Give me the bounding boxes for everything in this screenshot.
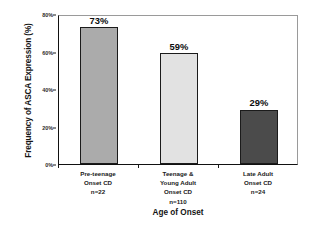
bar-value-label: 29% bbox=[226, 97, 292, 108]
y-axis-tick-mark bbox=[53, 90, 56, 91]
plot-area: 73%59%29% bbox=[58, 15, 298, 165]
x-axis-tick-mark bbox=[218, 165, 219, 168]
bar-chart-figure: Frequency of ASCA Expression (%) 0%20%40… bbox=[0, 0, 309, 228]
bars-layer: 73%59%29% bbox=[59, 16, 297, 164]
bar[interactable] bbox=[240, 110, 278, 164]
category-label: Teenage &Young AdultOnset CDn=110 bbox=[138, 169, 218, 206]
category-label-line: Teenage & bbox=[138, 169, 218, 178]
category-label-line: n=110 bbox=[138, 197, 218, 206]
bar-group[interactable]: 59% bbox=[160, 16, 198, 164]
y-axis-tick-labels: 0%20%40%60%80% bbox=[30, 15, 56, 165]
x-axis-tick-mark bbox=[138, 165, 139, 168]
category-label: Late AdultOnset CDn=24 bbox=[218, 169, 298, 197]
y-axis-tick-label: 60% bbox=[42, 50, 53, 56]
x-axis-title: Age of Onset bbox=[58, 208, 298, 217]
bar-value-label: 73% bbox=[66, 15, 132, 26]
category-label-line: Onset CD bbox=[218, 178, 298, 187]
y-axis-tick-label: 80% bbox=[42, 12, 53, 18]
x-axis-tick-mark bbox=[58, 165, 59, 168]
bar-value-label: 59% bbox=[146, 41, 212, 52]
category-label-line: Young Adult bbox=[138, 178, 218, 187]
category-label-line: Onset CD bbox=[138, 187, 218, 196]
category-label-line: n=24 bbox=[218, 187, 298, 196]
y-axis-tick-label: 40% bbox=[42, 87, 53, 93]
bar[interactable] bbox=[80, 27, 118, 164]
y-axis-tick-mark bbox=[53, 15, 56, 16]
y-axis-tick-mark bbox=[53, 127, 56, 128]
y-axis-tick-label: 0% bbox=[45, 162, 53, 168]
category-label-line: Late Adult bbox=[218, 169, 298, 178]
bar-group[interactable]: 73% bbox=[80, 16, 118, 164]
category-label-line: n=22 bbox=[58, 187, 138, 196]
bar-group[interactable]: 29% bbox=[240, 16, 278, 164]
y-axis-tick-label: 20% bbox=[42, 125, 53, 131]
y-axis-tick-mark bbox=[53, 165, 56, 166]
y-axis-tick-mark bbox=[53, 52, 56, 53]
category-label: Pre-teenageOnset CDn=22 bbox=[58, 169, 138, 197]
category-label-line: Onset CD bbox=[58, 178, 138, 187]
category-label-line: Pre-teenage bbox=[58, 169, 138, 178]
bar[interactable] bbox=[160, 53, 198, 164]
